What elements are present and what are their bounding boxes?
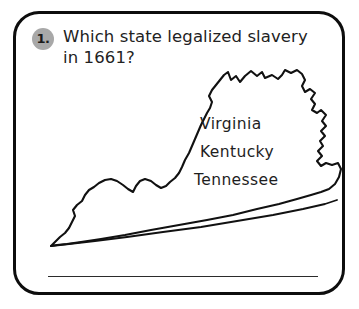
question-card: 1. Which state legalized slavery in 1661… — [13, 11, 345, 295]
question-text: Which state legalized slavery in 1661? — [63, 26, 325, 68]
answer-option-tennessee[interactable]: Tennessee — [194, 171, 278, 189]
answer-option-kentucky[interactable]: Kentucky — [200, 143, 274, 161]
answer-option-virginia[interactable]: Virginia — [200, 115, 262, 133]
answer-write-in-line[interactable] — [48, 276, 318, 277]
virginia-state-outline-icon — [29, 58, 349, 258]
virginia-state-outline-svg — [29, 58, 349, 258]
question-number-badge: 1. — [32, 28, 54, 50]
